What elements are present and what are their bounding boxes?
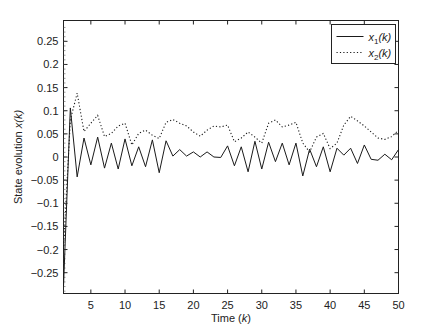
legend: x1(k)x2(k): [332, 25, 396, 64]
y-tick-label: 0.05: [37, 128, 58, 140]
x-axis-label-var: k: [242, 312, 248, 324]
y-tick-label: −0.15: [31, 220, 59, 232]
series-line-x2: [64, 93, 399, 249]
x-tick-label: 25: [221, 299, 233, 311]
x-axis-label: Time (k): [211, 312, 251, 324]
y-tick-label: 0.15: [37, 82, 58, 94]
y-axis-label: State evolution x(k): [12, 110, 24, 205]
y-tick-label: −0.1: [37, 197, 59, 209]
y-axis-label-var: x(k): [12, 110, 24, 130]
legend-suffix: (k): [378, 47, 391, 59]
x-tick-label: 45: [358, 299, 370, 311]
x-tick-label: 40: [324, 299, 336, 311]
x-tick-label: 10: [119, 299, 131, 311]
x-tick-label: 20: [187, 299, 199, 311]
y-tick-label: 0.25: [37, 35, 58, 47]
y-tick-label: −0.25: [31, 267, 59, 279]
legend-suffix: (k): [378, 31, 391, 43]
y-tick-label: 0.1: [43, 105, 58, 117]
line-chart: −0.25−0.2−0.15−0.1−0.0500.050.10.150.20.…: [0, 0, 421, 336]
y-tick-label: −0.2: [37, 244, 59, 256]
x-tick-label: 5: [88, 299, 94, 311]
x-tick-label: 35: [290, 299, 302, 311]
series-lines: [64, 93, 399, 286]
y-tick-label: 0: [52, 151, 58, 163]
x-tick-label: 30: [256, 299, 268, 311]
y-axis-ticks: −0.25−0.2−0.15−0.1−0.0500.050.10.150.20.…: [31, 27, 399, 291]
y-tick-label: −0.05: [31, 174, 59, 186]
x-tick-label: 15: [153, 299, 165, 311]
series-line-x1: [64, 108, 399, 287]
y-tick-label: 0.2: [43, 58, 58, 70]
x-tick-label: 50: [392, 299, 404, 311]
